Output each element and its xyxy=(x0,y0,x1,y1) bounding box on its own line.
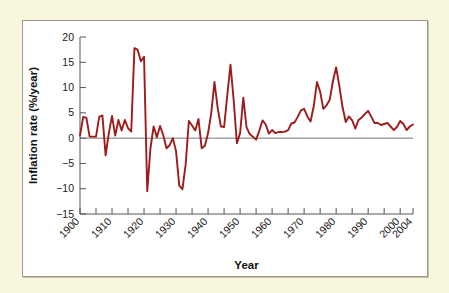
y-axis-tick-label: 0 xyxy=(68,132,74,144)
y-axis-tick-label: 15 xyxy=(62,56,74,68)
x-axis-tick-label: 1940 xyxy=(184,215,209,240)
y-axis-tick-label: 10 xyxy=(62,81,74,93)
y-axis-tick-label: 5 xyxy=(68,106,74,118)
chart-panel: −15−10−505101520190019101920193019401950… xyxy=(22,20,428,277)
x-axis-tick-label-group: 1910 xyxy=(88,215,113,240)
y-axis-tick-label: −5 xyxy=(62,157,74,169)
x-axis-tick-label: 1970 xyxy=(281,215,306,240)
x-axis-tick-label: 1950 xyxy=(217,215,242,240)
x-axis-tick-label: 1990 xyxy=(345,215,370,240)
x-axis-tick-label-group: 1930 xyxy=(152,215,177,240)
y-axis-title-group: Inflation rate (%/year) xyxy=(27,67,39,184)
x-axis-tick-label: 1980 xyxy=(313,215,338,240)
x-axis-tick-label-group: 1990 xyxy=(345,215,370,240)
inflation-rate-line xyxy=(80,48,413,191)
x-axis-tick-label: 1930 xyxy=(152,215,177,240)
x-axis-tick-label-group: 1920 xyxy=(120,215,145,240)
x-axis-tick-label: 1910 xyxy=(88,215,113,240)
y-axis-tick-label: −10 xyxy=(56,182,74,194)
x-axis-tick-label-group: 1940 xyxy=(184,215,209,240)
y-axis-title: Inflation rate (%/year) xyxy=(27,67,39,184)
y-axis-tick-label: 20 xyxy=(62,31,74,43)
x-axis-tick-label-group: 1970 xyxy=(281,215,306,240)
x-axis-tick-label-group: 1950 xyxy=(217,215,242,240)
x-axis-tick-label-group: 1980 xyxy=(313,215,338,240)
x-axis-title: Year xyxy=(234,259,259,271)
x-axis-tick-label: 1960 xyxy=(249,215,274,240)
x-axis-tick-label-group: 1960 xyxy=(249,215,274,240)
inflation-line-chart: −15−10−505101520190019101920193019401950… xyxy=(23,21,427,276)
x-axis-tick-label: 1920 xyxy=(120,215,145,240)
figure-container: −15−10−505101520190019101920193019401950… xyxy=(0,0,449,293)
